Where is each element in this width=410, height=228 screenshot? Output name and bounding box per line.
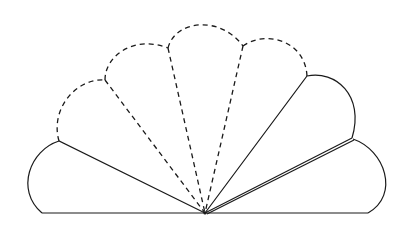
blade-7-edge-a [205,138,352,213]
pivot-point [203,211,206,214]
fan-diagram-canvas [0,0,410,228]
fan-diagram [0,0,410,228]
blade-7 [353,139,386,213]
blade-2 [57,80,105,141]
blade-7-edge-b [207,140,354,214]
blade-3 [105,44,168,80]
blade-6 [205,75,355,213]
blade-5 [243,39,307,76]
blade-4 [168,25,243,48]
